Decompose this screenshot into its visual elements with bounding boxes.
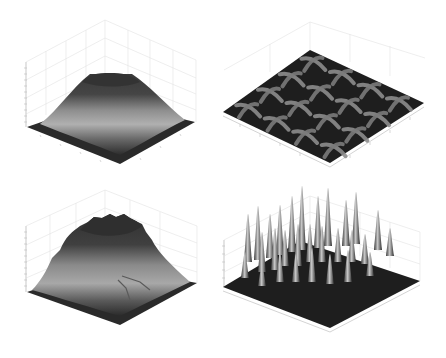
- spike: [334, 228, 342, 262]
- spike: [288, 196, 296, 252]
- panel-top-left: [24, 20, 196, 164]
- z-ticks: [222, 246, 225, 278]
- spike: [386, 228, 394, 256]
- figure-canvas: [0, 0, 446, 358]
- spike: [361, 234, 369, 264]
- spike: [374, 210, 382, 250]
- panel-bottom-left: [24, 190, 197, 325]
- panel-top-right: [223, 22, 425, 167]
- panel-bottom-right: [222, 186, 420, 332]
- figure: [0, 0, 446, 358]
